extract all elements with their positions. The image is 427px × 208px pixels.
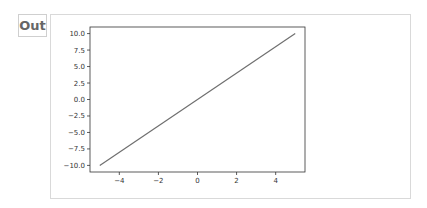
y-tick-label: 5.0 <box>74 63 85 71</box>
y-tick-label: −10.0 <box>64 162 85 170</box>
y-tick-label: 7.5 <box>74 47 85 55</box>
x-tick-label: 2 <box>234 177 238 185</box>
x-tick-label: −2 <box>153 177 163 185</box>
y-tick-label: 10.0 <box>69 30 85 38</box>
y-tick-label: 2.5 <box>74 80 85 88</box>
y-tick-label: −7.5 <box>68 145 85 153</box>
data-line <box>100 34 295 166</box>
y-tick-label: 0.0 <box>74 96 85 104</box>
x-axis-ticks: −4−2024 <box>114 172 278 185</box>
x-tick-label: 4 <box>273 177 278 185</box>
y-tick-label: −5.0 <box>68 129 85 137</box>
y-tick-label: −2.5 <box>68 112 85 120</box>
x-tick-label: −4 <box>114 177 125 185</box>
line-chart: 10.07.55.02.50.0−2.5−5.0−7.5−10.0 −4−202… <box>0 0 427 208</box>
y-axis-ticks: 10.07.55.02.50.0−2.5−5.0−7.5−10.0 <box>64 30 90 170</box>
x-tick-label: 0 <box>195 177 199 185</box>
